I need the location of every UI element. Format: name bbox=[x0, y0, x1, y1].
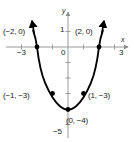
point-marker-left-mid bbox=[50, 91, 55, 96]
x-tick-label-neg3: −3 bbox=[17, 49, 26, 57]
point-label-right-root: (2, 0) bbox=[75, 28, 92, 36]
origin-tick-label: 0 bbox=[61, 49, 65, 57]
x-axis-label: x bbox=[121, 36, 124, 43]
parabola-graph-figure: (−2, 0) (2, 0) (−1, −3) (1, −3) (0, −4) … bbox=[0, 0, 134, 142]
point-marker-right-mid bbox=[81, 91, 86, 96]
point-label-vertex: (0, −4) bbox=[66, 117, 88, 125]
point-marker-right-root bbox=[97, 45, 102, 50]
parabola-left-arrow bbox=[32, 21, 34, 34]
y-tick-label-1: 1 bbox=[60, 26, 64, 34]
point-marker-vertex bbox=[66, 107, 71, 112]
point-label-left-root: (−2, 0) bbox=[3, 28, 25, 36]
point-label-left-mid: (−1, −3) bbox=[3, 92, 29, 100]
parabola-right-arrow bbox=[102, 21, 104, 34]
point-marker-left-root bbox=[35, 45, 40, 50]
point-label-right-mid: (1, −3) bbox=[88, 92, 110, 100]
x-tick-label-3: 3 bbox=[119, 49, 123, 57]
y-tick-label-neg5: −5 bbox=[53, 128, 62, 136]
y-axis-label: y bbox=[62, 7, 65, 14]
